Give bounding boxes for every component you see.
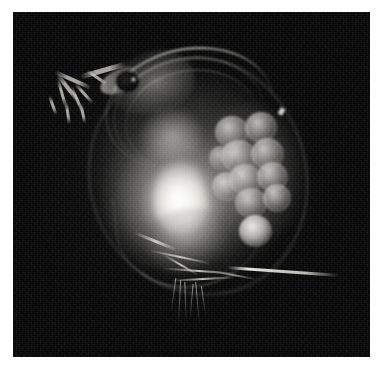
figure-page xyxy=(0,0,381,369)
film-grain-overlay xyxy=(13,12,370,357)
micrograph-plate xyxy=(13,12,370,357)
